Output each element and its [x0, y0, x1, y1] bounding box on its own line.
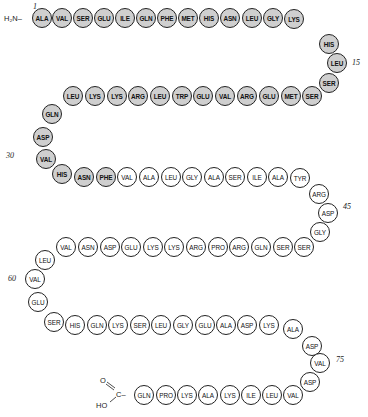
residue-58-val: VAL: [56, 237, 76, 257]
residue-70-ala: ALA: [216, 315, 236, 335]
residue-31-val: VAL: [36, 149, 56, 169]
residue-4-glu: GLU: [94, 8, 114, 28]
residue-60-val: VAL: [25, 269, 45, 289]
residue-2-val: VAL: [52, 8, 72, 28]
residue-65-lys: LYS: [108, 315, 128, 335]
residue-75-val: VAL: [310, 353, 330, 373]
residue-35-val: VAL: [117, 167, 137, 187]
residue-34-phe: PHE: [96, 167, 116, 187]
residue-83-pro: PRO: [156, 385, 176, 405]
n-terminus-label: H₂N–: [4, 14, 22, 23]
residue-19-glu: GLU: [259, 86, 279, 106]
residue-20-arg: ARG: [237, 86, 257, 106]
residue-number-label: 60: [8, 274, 16, 283]
residue-6-gln: GLN: [136, 8, 156, 28]
residue-29-gln: GLN: [42, 104, 62, 124]
residue-77-val: VAL: [283, 385, 303, 405]
residue-76-asp: ASP: [300, 372, 320, 392]
residue-number-label: 1: [33, 2, 37, 11]
residue-67-leu: LEU: [151, 315, 171, 335]
residue-41-ile: ILE: [247, 167, 267, 187]
residue-61-glu: GLU: [28, 292, 48, 312]
residue-15-leu: LEU: [327, 53, 347, 73]
residue-23-trp: TRP: [172, 86, 192, 106]
residue-52-arg: ARG: [186, 237, 206, 257]
residue-73-ala: ALA: [283, 319, 303, 339]
residue-66-ser: SER: [130, 315, 150, 335]
c-terminus-oxygen-label: O: [100, 376, 106, 385]
residue-27-lys: LYS: [85, 86, 105, 106]
residue-40-ser: SER: [225, 167, 245, 187]
residue-37-leu: LEU: [161, 167, 181, 187]
residue-5-ile: ILE: [115, 8, 135, 28]
residue-53-lys: LYS: [164, 237, 184, 257]
residue-79-ile: ILE: [241, 385, 261, 405]
residue-32-his: HIS: [52, 164, 72, 184]
residue-51-pro: PRO: [208, 237, 228, 257]
residue-14-his: HIS: [319, 34, 339, 54]
single-bond-icon: [108, 396, 118, 404]
residue-63-his: HIS: [65, 315, 85, 335]
residue-11-leu: LEU: [242, 8, 262, 28]
residue-64-gln: GLN: [87, 315, 107, 335]
residue-72-lys: LYS: [259, 315, 279, 335]
residue-1-ala: ALA: [32, 8, 52, 28]
residue-48-ser: SER: [273, 237, 293, 257]
residue-13-lys: LYS: [284, 9, 304, 29]
residue-number-label: 45: [343, 202, 351, 211]
residue-number-label: 15: [352, 58, 360, 67]
residue-36-ala: ALA: [139, 167, 159, 187]
residue-39-ala: ALA: [204, 167, 224, 187]
residue-69-glu: GLU: [195, 315, 215, 335]
residue-82-lys: LYS: [177, 385, 197, 405]
residue-43-tyr: TYR: [290, 168, 310, 188]
residue-33-asn: ASN: [74, 167, 94, 187]
residue-80-lys: LYS: [220, 385, 240, 405]
residue-81-ala: ALA: [198, 385, 218, 405]
residue-number-label: 75: [336, 355, 344, 364]
residue-68-gly: GLY: [173, 315, 193, 335]
residue-25-arg: ARG: [128, 86, 148, 106]
residue-62-ser: SER: [44, 312, 64, 332]
residue-47-ser: SER: [294, 237, 314, 257]
residue-45-asp: ASP: [318, 203, 338, 223]
residue-16-ser: SER: [319, 73, 339, 93]
residue-38-gly: GLY: [182, 167, 202, 187]
residue-17-ser: SER: [302, 86, 322, 106]
c-terminus-hydroxyl-label: HO: [96, 401, 107, 410]
residue-71-asp: ASP: [237, 315, 257, 335]
residue-42-ala: ALA: [268, 167, 288, 187]
residue-84-gln: GLN: [134, 385, 154, 405]
residue-56-asp: ASP: [100, 237, 120, 257]
residue-50-arg: ARG: [229, 237, 249, 257]
residue-7-phe: PHE: [157, 8, 177, 28]
residue-26-lys: LYS: [107, 86, 127, 106]
residue-78-leu: LEU: [262, 385, 282, 405]
residue-59-leu: LEU: [35, 250, 55, 270]
amino-acid-sequence-diagram: H₂N– ALAVALSERGLUILEGLNPHEMETHISASNLEUGL…: [0, 0, 368, 417]
residue-24-leu: LEU: [150, 86, 170, 106]
residue-54-lys: LYS: [143, 237, 163, 257]
residue-10-asn: ASN: [220, 8, 240, 28]
residue-55-glu: GLU: [121, 237, 141, 257]
residue-57-asn: ASN: [78, 237, 98, 257]
residue-44-arg: ARG: [309, 184, 329, 204]
residue-49-gln: GLN: [251, 237, 271, 257]
residue-8-met: MET: [178, 8, 198, 28]
residue-22-glu: GLU: [193, 86, 213, 106]
residue-46-gly: GLY: [310, 222, 330, 242]
residue-12-gly: GLY: [263, 8, 283, 28]
residue-28-leu: LEU: [63, 86, 83, 106]
residue-9-his: HIS: [199, 8, 219, 28]
residue-21-val: VAL: [215, 86, 235, 106]
residue-18-met: MET: [281, 86, 301, 106]
residue-number-label: 30: [6, 151, 14, 160]
residue-30-asp: ASP: [33, 127, 53, 147]
residue-3-ser: SER: [73, 8, 93, 28]
